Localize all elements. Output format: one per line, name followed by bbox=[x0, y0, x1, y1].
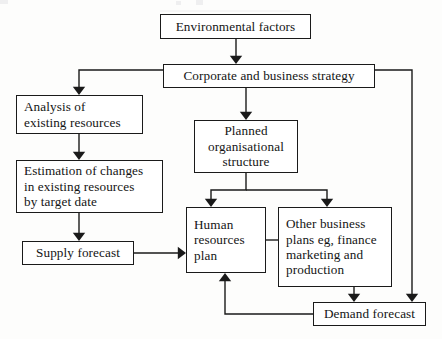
node-label-supply-forecast: Supply forecast bbox=[36, 245, 120, 260]
arrowhead bbox=[73, 233, 85, 241]
connector-supply-forecast-to-hr-plan bbox=[134, 247, 186, 259]
node-label-demand-forecast: Demand forecast bbox=[324, 306, 415, 321]
connector-structure-to-other-plans bbox=[246, 190, 333, 207]
node-label-analysis-existing-resources: Analysis of existing resources bbox=[24, 99, 121, 130]
arrowhead bbox=[406, 294, 418, 302]
node-human-resources-plan[interactable]: Human resources plan bbox=[186, 207, 266, 273]
connector-corporate-to-planned-structure bbox=[240, 88, 252, 120]
node-label-human-resources-plan: Human resources plan bbox=[194, 217, 245, 263]
node-label-planned-organisational-structure: Planned organisational structure bbox=[208, 123, 284, 169]
scan-artifact bbox=[196, 0, 203, 5]
node-environmental-factors[interactable]: Environmental factors bbox=[160, 14, 311, 39]
connector-corporate-to-analysis bbox=[73, 70, 163, 95]
arrowhead bbox=[205, 199, 217, 207]
node-supply-forecast[interactable]: Supply forecast bbox=[22, 241, 134, 265]
scan-artifact bbox=[160, 10, 290, 12]
scan-artifact bbox=[176, 1, 181, 5]
hr-planning-flowchart: Environmental factorsCorporate and busin… bbox=[0, 0, 442, 339]
arrowhead bbox=[73, 87, 85, 95]
node-demand-forecast[interactable]: Demand forecast bbox=[313, 302, 426, 326]
node-label-estimation-of-changes: Estimation of changes in existing resour… bbox=[24, 163, 143, 209]
scan-artifact bbox=[0, 0, 8, 4]
node-estimation-of-changes[interactable]: Estimation of changes in existing resour… bbox=[16, 160, 163, 213]
arrowhead bbox=[178, 247, 186, 259]
node-label-environmental-factors: Environmental factors bbox=[176, 19, 296, 34]
node-analysis-existing-resources[interactable]: Analysis of existing resources bbox=[16, 95, 143, 134]
node-label-corporate-business-strategy: Corporate and business strategy bbox=[183, 68, 354, 83]
arrowhead bbox=[73, 152, 85, 160]
arrowhead bbox=[240, 112, 252, 120]
arrowhead bbox=[230, 56, 242, 64]
node-corporate-business-strategy[interactable]: Corporate and business strategy bbox=[163, 64, 375, 88]
arrowhead bbox=[321, 199, 333, 207]
connector-other-plans-to-demand-forecast bbox=[348, 287, 360, 302]
connector-analysis-to-estimation bbox=[73, 134, 85, 160]
node-planned-organisational-structure[interactable]: Planned organisational structure bbox=[194, 120, 298, 173]
connector-structure-to-hr-plan bbox=[205, 173, 246, 207]
connector-environmental-to-corporate bbox=[230, 39, 242, 64]
arrowhead bbox=[219, 273, 231, 281]
node-label-other-business-plans: Other business plans eg, finance marketi… bbox=[286, 216, 377, 278]
connector-estimation-to-supply-forecast bbox=[73, 213, 85, 241]
node-other-business-plans[interactable]: Other business plans eg, finance marketi… bbox=[278, 207, 392, 287]
arrowhead bbox=[348, 294, 360, 302]
